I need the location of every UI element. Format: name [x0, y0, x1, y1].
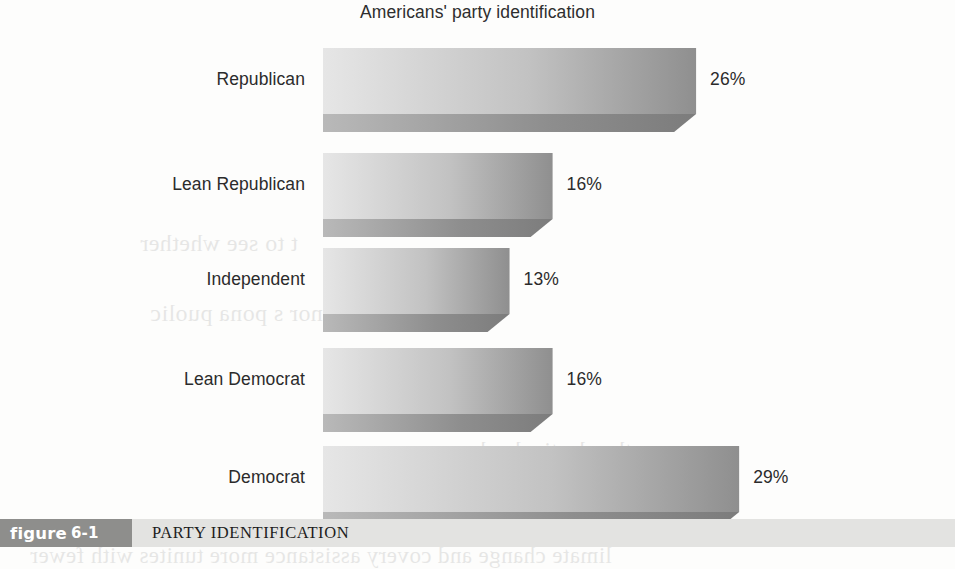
figure-tag-word: figure: [10, 524, 67, 543]
bar-value-label: 16%: [567, 369, 602, 390]
figure-number-tag: figure 6-1: [0, 519, 132, 547]
bar-category-label: Democrat: [228, 467, 305, 488]
bar-lean-republican: [323, 153, 557, 239]
bar-value-label: 26%: [710, 69, 745, 90]
bar-republican: [323, 48, 700, 134]
bar-category-label: Lean Republican: [172, 174, 305, 195]
figure-caption-bar: figure 6-1 PARTY IDENTIFICATION: [0, 519, 955, 547]
bar-row: Republican26%: [0, 48, 955, 132]
bleed-text: limate change and covery assistance more…: [30, 547, 612, 569]
figure-tag-number: 6-1: [71, 524, 99, 542]
bar-row: Independent13%: [0, 248, 955, 332]
chart-title: Americans' party identification: [0, 2, 955, 23]
bar-independent: [323, 248, 514, 334]
figure-page: the electively choose difficult fac t to…: [0, 0, 955, 569]
bar-value-label: 29%: [753, 467, 788, 488]
bar-lean-democrat: [323, 348, 557, 434]
bar-row: Lean Democrat16%: [0, 348, 955, 432]
figure-caption-text: PARTY IDENTIFICATION: [152, 519, 349, 547]
bar-value-label: 16%: [567, 174, 602, 195]
bar-row: Lean Republican16%: [0, 153, 955, 237]
bottom-bleed-strip: limate change and covery assistance more…: [0, 547, 955, 569]
bar-category-label: Republican: [216, 69, 305, 90]
chart-plot-area: Republican26%Lean Republican16%Independe…: [0, 28, 955, 503]
bar-row: Democrat29%: [0, 446, 955, 530]
bar-value-label: 13%: [524, 269, 559, 290]
bar-category-label: Lean Democrat: [184, 369, 305, 390]
bar-category-label: Independent: [207, 269, 305, 290]
